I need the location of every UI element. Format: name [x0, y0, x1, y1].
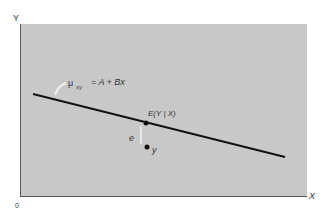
regression-equation: = A + Bx — [91, 77, 125, 87]
regression-diagram: Y X 0 μ xy = A + Bx E(Y | X) e y — [0, 0, 328, 216]
y-axis-label: Y — [13, 13, 19, 23]
x-axis-label: X — [308, 191, 316, 201]
mu-subscript: xy — [76, 84, 82, 90]
observation-point — [145, 145, 150, 150]
expected-value-label: E(Y | X) — [148, 109, 176, 118]
origin-label: 0 — [15, 202, 19, 209]
mu-symbol: μ — [68, 78, 73, 88]
error-label: e — [129, 133, 134, 143]
observation-label: y — [151, 145, 157, 155]
expected-value-point — [144, 121, 149, 126]
